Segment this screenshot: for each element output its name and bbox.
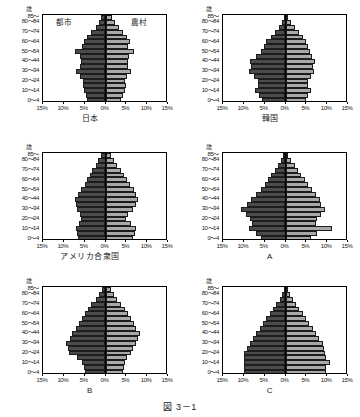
pyramid-panel-A: 歳85～80～8470～7460～6450～5440～4430～3420～241… [180,138,360,272]
panel-cell-usa: 歳85～80～8470～7460～6450～5440～4430～3420～241… [0,138,180,272]
x-tick-mark [264,102,265,104]
y-tick-label: 60～64 [180,310,219,316]
x-tick-label: 0% [281,377,289,383]
x-tick-mark [105,102,106,104]
y-tick-label: 60～64 [0,176,39,182]
x-tick-mark [222,240,223,242]
x-tick-mark [264,240,265,242]
x-tick-label: 5% [260,105,268,111]
y-tick-label: 70～74 [0,300,39,306]
x-tick-label: 5% [121,105,129,111]
plot-area-japan [42,14,167,102]
plot-area-usa [42,152,167,240]
y-tick-label: 0～4 [180,97,219,103]
x-tick-mark [222,102,223,104]
x-tick-mark [347,102,348,104]
x-tick-label: 5% [301,243,309,249]
y-tick-label: 80～84 [0,18,39,24]
y-tick-label: 70～74 [0,28,39,34]
x-tick-label: 15% [342,377,353,383]
x-tick-label: 0% [101,105,109,111]
y-axis-unit-label: 歳 [206,6,212,12]
y-tick-label: 10～14 [0,225,39,231]
figure-population-pyramids: 歳85～80～8470～7460～6450～5440～4430～3420～241… [0,0,360,417]
pyramid-grid: 歳85～80～8470～7460～6450～5440～4430～3420～241… [0,0,360,392]
x-tick-mark [125,102,126,104]
x-tick-label: 15% [162,243,173,249]
bar-rural [106,370,124,374]
center-axis-line [105,153,106,239]
center-axis-line [285,15,286,101]
x-tick-mark [167,374,168,376]
x-tick-label: 10% [57,377,68,383]
center-axis-line [105,287,106,373]
x-tick-mark [326,374,327,376]
bar-urban [78,236,106,240]
x-tick-mark [285,374,286,376]
center-axis-line [105,15,106,101]
y-tick-label: 30～34 [0,67,39,73]
x-tick-mark [222,374,223,376]
x-tick-mark [347,374,348,376]
panel-cell-japan: 歳85～80～8470～7460～6450～5440～4430～3420～241… [0,0,180,138]
y-tick-label: 70～74 [180,300,219,306]
bar-urban [262,98,285,102]
pyramid-panel-C: 歳85～80～8470～7460～6450～5440～4430～3420～241… [180,272,360,392]
y-tick-label: 30～34 [180,67,219,73]
x-tick-label: 15% [217,243,228,249]
pyramid-panel-usa: 歳85～80～8470～7460～6450～5440～4430～3420～241… [0,138,180,272]
panel-title-korea: 韓国 [180,114,360,123]
bar-rural [106,98,122,102]
x-tick-mark [305,374,306,376]
y-tick-label: 10～14 [180,359,219,365]
y-axis-unit-label: 歳 [206,278,212,284]
x-tick-mark [326,240,327,242]
pyramid-panel-korea: 歳85～80～8470～7460～6450～5440～4430～3420～241… [180,0,360,138]
y-tick-label: 50～54 [180,320,219,326]
legend-label-urban: 都市 [56,19,71,27]
y-tick-label: 60～64 [180,176,219,182]
y-tick-label: 10～14 [180,87,219,93]
x-tick-mark [146,102,147,104]
y-tick-label: 50～54 [180,48,219,54]
x-tick-mark [63,240,64,242]
y-tick-label: 60～64 [180,38,219,44]
y-tick-label: 10～14 [180,225,219,231]
pyramid-panel-japan: 歳85～80～8470～7460～6450～5440～4430～3420～241… [0,0,180,138]
y-tick-label: 0～4 [0,97,39,103]
x-tick-mark [243,102,244,104]
y-tick-label: 50～54 [0,48,39,54]
x-tick-mark [305,102,306,104]
y-tick-label: 50～54 [180,186,219,192]
figure-caption: 図 3－1 [0,402,360,413]
x-tick-label: 10% [57,105,68,111]
y-tick-label: 70～74 [180,166,219,172]
y-tick-label: 20～24 [0,77,39,83]
y-tick-label: 30～34 [180,339,219,345]
y-tick-label: 50～54 [0,320,39,326]
y-tick-label: 30～34 [180,205,219,211]
legend-label-rural: 農村 [131,19,146,27]
x-tick-label: 5% [121,377,129,383]
x-tick-mark [125,374,126,376]
y-tick-label: 0～4 [180,235,219,241]
y-tick-label: 40～44 [0,57,39,63]
x-tick-label: 15% [342,243,353,249]
plot-area-C [222,286,347,374]
x-tick-mark [63,374,64,376]
x-tick-mark [243,240,244,242]
y-tick-label: 20～24 [180,215,219,221]
panel-cell-C: 歳85～80～8470～7460～6450～5440～4430～3420～241… [180,272,360,392]
x-tick-label: 5% [80,243,88,249]
y-tick-label: 0～4 [0,369,39,375]
x-tick-label: 5% [260,377,268,383]
bar-urban [244,370,286,374]
x-tick-label: 10% [237,105,248,111]
plot-area-B [42,286,167,374]
y-tick-label: 10～14 [0,359,39,365]
y-tick-label: 40～44 [0,329,39,335]
y-tick-label: 40～44 [0,195,39,201]
x-tick-mark [167,240,168,242]
x-tick-mark [63,102,64,104]
x-tick-label: 15% [37,243,48,249]
